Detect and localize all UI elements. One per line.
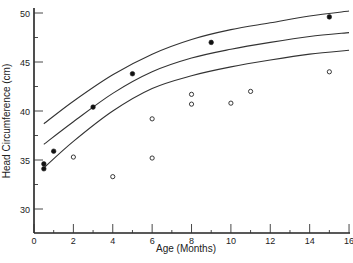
filled-data-point bbox=[209, 40, 214, 45]
x-tick-label: 14 bbox=[305, 236, 315, 246]
y-tick-label: 30 bbox=[20, 205, 30, 215]
open-data-point bbox=[71, 155, 75, 159]
filled-data-point bbox=[42, 167, 47, 172]
filled-data-point bbox=[327, 15, 332, 20]
reference-curves bbox=[44, 11, 349, 168]
filled-data-point bbox=[51, 149, 56, 154]
x-axis-label: Age (Months) bbox=[156, 243, 216, 254]
y-tick-label: 45 bbox=[20, 58, 30, 68]
open-data-point bbox=[327, 70, 331, 74]
x-tick-label: 12 bbox=[265, 236, 275, 246]
x-tick-label: 10 bbox=[226, 236, 236, 246]
open-data-point bbox=[189, 92, 193, 96]
upper-curve bbox=[44, 11, 349, 124]
open-data-point bbox=[248, 89, 252, 93]
y-tick-label: 40 bbox=[20, 107, 30, 117]
open-data-point bbox=[150, 156, 154, 160]
y-tick-label: 50 bbox=[20, 9, 30, 19]
filled-data-point bbox=[42, 162, 47, 167]
filled-data-point bbox=[130, 71, 135, 76]
y-tick-label: 35 bbox=[20, 156, 30, 166]
x-tick-label: 0 bbox=[31, 236, 36, 246]
head-circumference-chart: 02468101214163035404550 Age (Months) Hea… bbox=[0, 0, 353, 263]
x-tick-label: 6 bbox=[150, 236, 155, 246]
open-data-point bbox=[229, 101, 233, 105]
axes: 02468101214163035404550 bbox=[20, 8, 353, 246]
open-data-point bbox=[111, 175, 115, 179]
filled-data-point bbox=[91, 105, 96, 110]
x-tick-label: 16 bbox=[344, 236, 353, 246]
y-axis-label: Head Circumference (cm) bbox=[1, 64, 12, 178]
open-data-point bbox=[189, 102, 193, 106]
open-data-point bbox=[150, 117, 154, 121]
x-tick-label: 2 bbox=[71, 236, 76, 246]
x-tick-label: 4 bbox=[110, 236, 115, 246]
